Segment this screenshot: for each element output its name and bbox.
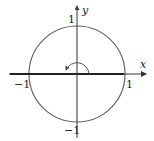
y-axis-label: y <box>81 4 89 17</box>
unit-circle-figure: x y 1 −1 1 −1 <box>0 0 154 141</box>
tick-y-neg: −1 <box>64 124 80 137</box>
tick-x-neg: −1 <box>14 78 30 91</box>
tick-x-pos: 1 <box>126 78 133 91</box>
x-axis-label: x <box>140 58 147 71</box>
tick-y-pos: 1 <box>68 13 75 26</box>
